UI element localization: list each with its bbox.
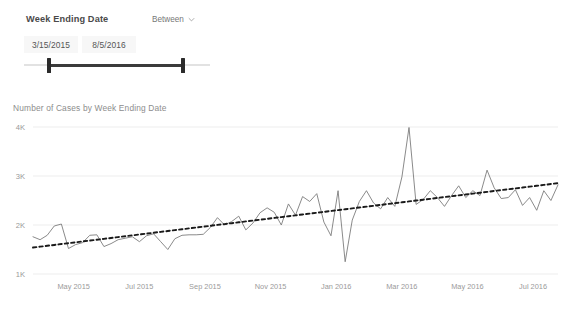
slicer-mode-label: Between — [152, 15, 184, 24]
x-axis-tick-label: May 2016 — [451, 282, 483, 291]
slicer-header: Week Ending Date Between — [26, 14, 226, 30]
x-axis-tick-label: Jul 2015 — [125, 282, 153, 291]
chevron-down-icon — [188, 16, 195, 23]
x-axis-tick-label: May 2015 — [57, 282, 89, 291]
slider-handle-start[interactable] — [47, 58, 51, 73]
y-axis-tick-label: 4K — [16, 123, 25, 132]
x-axis-tick-label: Mar 2016 — [386, 282, 417, 291]
series-line-number-of-cases — [33, 127, 558, 261]
y-axis-labels: 1K2K3K4K — [16, 123, 25, 279]
start-date-value: 3/15/2015 — [32, 40, 70, 50]
gridlines — [33, 127, 558, 274]
start-date-input[interactable]: 3/15/2015 — [24, 36, 78, 53]
end-date-value: 8/5/2016 — [92, 40, 125, 50]
x-axis-tick-label: Sep 2015 — [189, 282, 221, 291]
slicer-title: Week Ending Date — [26, 14, 108, 24]
line-chart-card: Number of Cases by Week Ending Date 1K2K… — [0, 98, 572, 306]
date-range-slider[interactable] — [24, 56, 210, 74]
date-slicer-card: Week Ending Date Between 3/15/2015 8/5/2… — [0, 0, 240, 92]
x-axis-labels: May 2015Jul 2015Sep 2015Nov 2015Jan 2016… — [57, 282, 547, 291]
end-date-input[interactable]: 8/5/2016 — [82, 36, 136, 53]
slider-handle-end[interactable] — [181, 58, 185, 73]
chart-svg: 1K2K3K4K May 2015Jul 2015Sep 2015Nov 201… — [0, 98, 572, 306]
y-axis-tick-label: 2K — [16, 221, 25, 230]
y-axis-tick-label: 1K — [16, 270, 25, 279]
slicer-mode-dropdown[interactable]: Between — [152, 15, 195, 24]
slider-selected-range[interactable] — [49, 64, 183, 67]
y-axis-tick-label: 3K — [16, 172, 25, 181]
x-axis-tick-label: Jul 2016 — [519, 282, 547, 291]
chart-plot-area[interactable]: 1K2K3K4K May 2015Jul 2015Sep 2015Nov 201… — [0, 98, 572, 306]
x-axis-tick-label: Nov 2015 — [255, 282, 287, 291]
trend-line-dashed — [33, 183, 558, 247]
x-axis-tick-label: Jan 2016 — [321, 282, 351, 291]
